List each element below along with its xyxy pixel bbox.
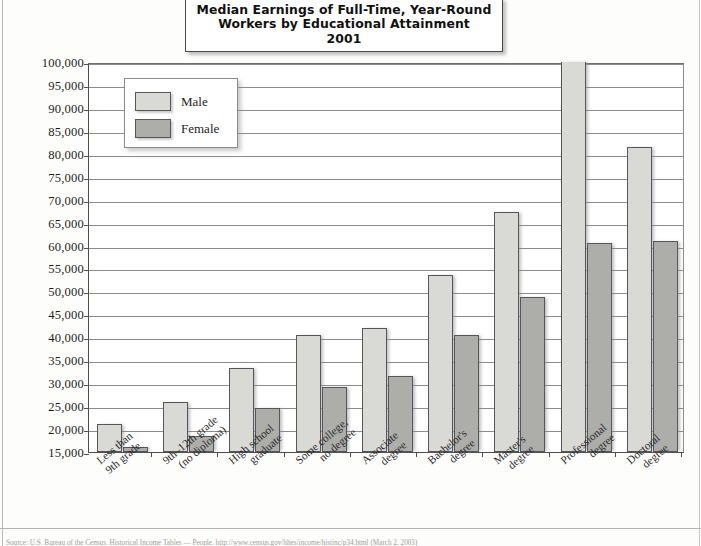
bar-female — [587, 243, 612, 452]
bar-female — [520, 297, 545, 452]
y-axis-tick-label: 100,000 — [4, 57, 84, 69]
legend-label-female: Female — [181, 121, 219, 137]
bar-male — [362, 328, 387, 452]
y-axis-tick — [84, 339, 89, 340]
y-axis-tick — [84, 110, 89, 111]
y-axis-tick — [84, 316, 89, 317]
legend-swatch-female — [135, 119, 171, 138]
chart-title-year: 2001 — [192, 32, 496, 46]
chart-title-box: Median Earnings of Full-Time, Year-Round… — [185, 0, 503, 52]
y-axis-tick-label: 60,000 — [4, 241, 84, 253]
legend-item-female: Female — [135, 115, 237, 142]
gridline — [89, 225, 683, 226]
y-axis-tick-label: 55,000 — [4, 263, 84, 275]
y-axis-tick-label: 75,000 — [4, 172, 84, 184]
gridline — [89, 179, 683, 180]
y-axis-tick — [84, 133, 89, 134]
y-axis-tick — [84, 362, 89, 363]
y-axis-labels: 100,00095,00090,00085,00080,00075,00070,… — [0, 63, 84, 453]
y-axis-tick — [84, 431, 89, 432]
gridline — [89, 202, 683, 203]
bar-male — [627, 147, 652, 452]
chart-legend: Male Female — [124, 78, 238, 148]
y-axis-tick — [84, 156, 89, 157]
x-axis-labels: Less than9th grade9th–12th grade(no dipl… — [0, 455, 701, 530]
y-axis-tick-label: 25,000 — [4, 401, 84, 413]
y-axis-tick — [84, 248, 89, 249]
y-axis-tick — [84, 64, 89, 65]
y-axis-tick-label: 70,000 — [4, 195, 84, 207]
y-axis-tick — [84, 293, 89, 294]
y-axis-tick-label: 65,000 — [4, 218, 84, 230]
y-axis-tick-label: 45,000 — [4, 309, 84, 321]
gridline — [89, 64, 683, 65]
chart-title-line-1: Median Earnings of Full-Time, Year-Round — [192, 3, 496, 17]
y-axis-tick-label: 85,000 — [4, 126, 84, 138]
legend-item-male: Male — [135, 88, 237, 115]
y-axis-tick — [84, 202, 89, 203]
y-axis-tick — [84, 385, 89, 386]
gridline — [89, 156, 683, 157]
y-axis-tick — [84, 270, 89, 271]
chart-title-line-2: Workers by Educational Attainment — [192, 17, 496, 31]
bar-male — [296, 335, 321, 452]
bar-female — [653, 241, 678, 452]
legend-label-male: Male — [181, 94, 208, 110]
y-axis-tick-label: 80,000 — [4, 149, 84, 161]
bar-male — [494, 212, 519, 452]
y-axis-tick — [84, 408, 89, 409]
y-axis-tick-label: 50,000 — [4, 286, 84, 298]
bar-male — [428, 275, 453, 452]
y-axis-tick-label: 40,000 — [4, 332, 84, 344]
y-axis-tick-label: 30,000 — [4, 378, 84, 390]
bar-male — [561, 62, 586, 452]
legend-swatch-male — [135, 92, 171, 111]
y-axis-tick — [84, 179, 89, 180]
y-axis-tick-label: 20,000 — [4, 424, 84, 436]
y-axis-tick-label: 95,000 — [4, 80, 84, 92]
y-axis-tick — [84, 225, 89, 226]
y-axis-tick-label: 90,000 — [4, 103, 84, 115]
source-note: Source: U.S. Bureau of the Census. Histo… — [6, 539, 696, 546]
y-axis-tick-label: 35,000 — [4, 355, 84, 367]
y-axis-tick — [84, 87, 89, 88]
